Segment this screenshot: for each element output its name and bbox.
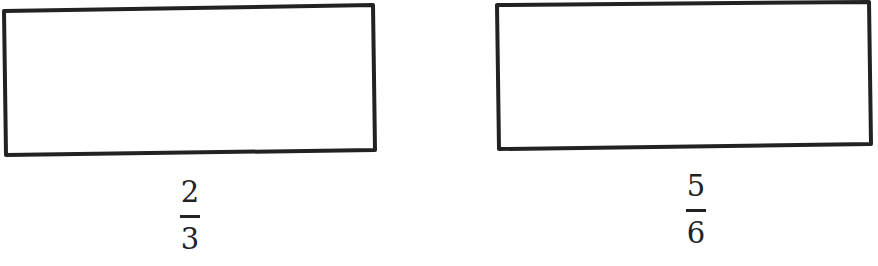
left-numerator: 2 xyxy=(170,178,210,207)
left-rectangle xyxy=(4,5,375,155)
left-fraction-bar xyxy=(180,215,200,218)
right-numerator: 5 xyxy=(676,172,716,201)
right-rectangle xyxy=(497,2,871,149)
left-fraction-label: 2 3 xyxy=(170,178,210,254)
right-fraction-bar xyxy=(686,209,706,212)
right-denominator: 6 xyxy=(676,219,716,248)
left-denominator: 3 xyxy=(170,225,210,254)
right-fraction-label: 5 6 xyxy=(676,172,716,248)
rectangles-canvas xyxy=(0,0,878,266)
